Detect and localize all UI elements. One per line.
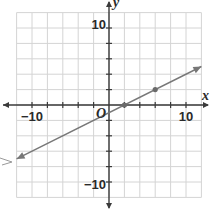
- y-axis-down-arrow-icon: [106, 203, 112, 209]
- x-axis-label: x: [201, 88, 209, 103]
- data-point: [122, 102, 127, 107]
- y-tick-label-neg10: −10: [84, 177, 106, 192]
- coordinate-plane: −10 10 10 −10 O x y: [0, 0, 211, 210]
- axes: [3, 1, 209, 209]
- y-axis-label: y: [111, 0, 120, 10]
- x-tick-label-neg10: −10: [21, 109, 43, 124]
- y-axis-up-arrow-icon: [106, 1, 112, 7]
- data-point: [153, 87, 158, 92]
- x-axis-left-arrow-icon: [3, 102, 9, 108]
- origin-label: O: [96, 106, 106, 121]
- x-tick-label-10: 10: [179, 109, 193, 124]
- y-tick-label-10: 10: [92, 17, 106, 32]
- stray-pointer-mark: [0, 158, 12, 165]
